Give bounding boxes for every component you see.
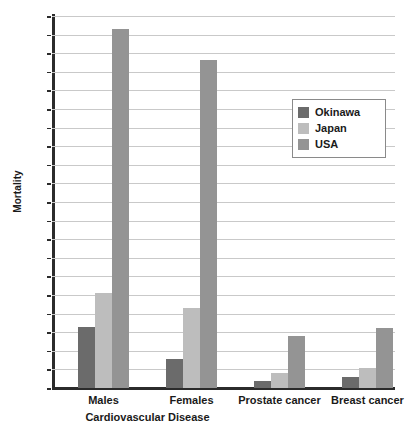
y-axis-tick-mark	[47, 276, 51, 278]
gridline	[52, 16, 395, 17]
gridline	[52, 276, 395, 277]
bar-usa	[288, 336, 305, 388]
y-axis-tick-mark	[47, 109, 51, 111]
bar-chart: Mortality 010203040506070809010011012013…	[0, 0, 405, 443]
y-axis-tick-mark	[47, 202, 51, 204]
y-axis-tick-mark	[47, 221, 51, 223]
gridline	[52, 221, 395, 222]
bar-okinawa	[166, 359, 183, 388]
gridline	[52, 90, 395, 91]
y-axis-tick-mark	[47, 35, 51, 37]
bar-japan	[95, 293, 112, 388]
y-axis-tick-mark	[47, 239, 51, 241]
bar-japan	[271, 373, 288, 388]
y-axis-tick-mark	[47, 146, 51, 148]
bar-japan	[183, 308, 200, 388]
y-axis-tick-mark	[47, 53, 51, 55]
plot-area: 0102030405060708090100110120130140150160…	[52, 16, 395, 388]
y-axis-tick-mark	[47, 16, 51, 18]
gridline	[52, 183, 395, 184]
gridline	[52, 202, 395, 203]
y-axis-tick-mark	[47, 90, 51, 92]
legend-label: Okinawa	[315, 107, 360, 118]
y-axis-tick-mark	[47, 165, 51, 167]
gridline	[52, 258, 395, 259]
y-axis-tick-mark	[47, 388, 51, 390]
x-axis-category-label: Males	[88, 394, 119, 406]
y-axis-tick-mark	[47, 351, 51, 353]
y-axis-tick-mark	[47, 72, 51, 74]
legend-swatch-icon	[298, 123, 309, 134]
bar-usa	[112, 29, 129, 388]
x-axis-category-label: Females	[169, 394, 213, 406]
y-axis-tick-mark	[47, 295, 51, 297]
legend-item-usa: USA	[298, 136, 380, 152]
gridline	[52, 165, 395, 166]
y-axis-tick-mark	[47, 183, 51, 185]
legend-label: Japan	[315, 123, 347, 134]
gridline	[52, 72, 395, 73]
legend-swatch-icon	[298, 107, 309, 118]
bar-japan	[359, 368, 376, 388]
y-axis-tick-mark	[47, 314, 51, 316]
legend-item-okinawa: Okinawa	[298, 104, 380, 120]
legend-item-japan: Japan	[298, 120, 380, 136]
bar-okinawa	[78, 327, 95, 388]
bar-usa	[200, 60, 217, 388]
x-axis-category-label: Breast cancer	[331, 394, 404, 406]
gridline	[52, 239, 395, 240]
y-axis-tick-mark	[47, 369, 51, 371]
y-axis-tick-mark	[47, 128, 51, 130]
y-axis-title: Mortality	[12, 137, 23, 247]
x-axis-category-label: Prostate cancer	[238, 394, 321, 406]
legend-swatch-icon	[298, 139, 309, 150]
y-axis-tick-mark	[47, 332, 51, 334]
bar-usa	[376, 328, 393, 388]
gridline	[52, 35, 395, 36]
y-axis-tick-mark	[47, 258, 51, 260]
bar-okinawa	[254, 381, 271, 388]
chart-legend: Okinawa Japan USA	[292, 99, 386, 158]
legend-label: USA	[315, 139, 338, 150]
gridline	[52, 53, 395, 54]
bar-okinawa	[342, 377, 359, 388]
x-axis-group-label: Cardiovascular Disease	[85, 411, 209, 423]
